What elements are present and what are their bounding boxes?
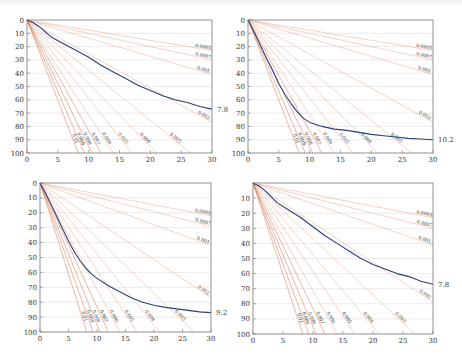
ray-label: 0.001 (196, 65, 210, 74)
ray-label: 0.004 (144, 309, 156, 322)
x-tick-label: 0 (251, 337, 255, 345)
ray-label: 0.006 (325, 311, 336, 325)
y-tick-label: 20 (236, 43, 245, 51)
ray-label: 0.006 (109, 309, 120, 323)
ray-label: 0.0007 (195, 217, 212, 226)
ray-label: 0.005 (338, 131, 350, 144)
y-tick-label: 10 (241, 195, 250, 203)
y-tick-label: 40 (28, 239, 37, 247)
ray-line (40, 183, 211, 226)
x-tick-label: 0 (38, 335, 42, 343)
data-curve (248, 20, 433, 140)
y-tick-label: 80 (15, 123, 24, 131)
y-tick-label: 0 (241, 17, 245, 25)
x-tick-label: 25 (399, 337, 408, 345)
y-tick-label: 70 (15, 110, 24, 118)
y-tick-label: 60 (241, 270, 250, 278)
x-tick-label: 10 (309, 337, 318, 345)
y-tick-label: 10 (236, 30, 245, 38)
y-tick-label: 40 (236, 70, 245, 78)
x-tick-label: 30 (207, 335, 216, 343)
y-tick-label: 20 (241, 210, 250, 218)
ray-line (40, 183, 211, 298)
ray-label: 0.0007 (416, 51, 433, 59)
y-tick-label: 0 (20, 17, 24, 25)
data-curve (40, 183, 211, 313)
chart-panel-bottom-right: 0.00050.00070.0010.0020.0030.0040.0050.0… (223, 153, 462, 359)
y-tick-label: 60 (15, 96, 24, 104)
y-tick-label: 20 (28, 209, 37, 217)
y-tick-label: 10 (15, 30, 24, 38)
y-tick-label: 50 (28, 254, 37, 262)
ray-label: 0.001 (418, 235, 432, 244)
ray-line (40, 183, 211, 216)
y-tick-label: 100 (24, 329, 37, 337)
x-tick-label: 15 (339, 337, 348, 345)
x-tick-label: 20 (150, 335, 159, 343)
curve-end-label: 10.2 (438, 136, 454, 144)
y-tick-label: 80 (28, 299, 37, 307)
x-tick-label: 5 (281, 337, 285, 345)
y-tick-label: 90 (236, 136, 245, 144)
ray-line (248, 20, 433, 60)
y-tick-label: 50 (15, 83, 24, 91)
y-tick-label: 80 (236, 123, 245, 131)
y-tick-label: 30 (236, 56, 245, 64)
curve-end-label: 7.8 (438, 281, 449, 289)
y-tick-label: 0 (33, 180, 37, 188)
ray-label: 0.003 (174, 309, 187, 322)
y-tick-label: 30 (15, 56, 24, 64)
y-tick-label: 90 (241, 315, 250, 323)
y-tick-label: 40 (241, 240, 250, 248)
ray-label: 0.002 (418, 110, 432, 121)
ray-label: 0.0007 (416, 219, 433, 228)
ray-line (248, 20, 433, 75)
y-tick-label: 50 (236, 83, 245, 91)
y-tick-label: 70 (236, 110, 245, 118)
chart-panel-bottom-left: 0.00050.00070.0010.0020.0030.0040.0050.0… (10, 153, 241, 359)
y-tick-label: 20 (15, 43, 24, 51)
ray-label: 0.003 (394, 311, 407, 324)
ray-label: 0.002 (197, 110, 211, 121)
y-tick-label: 70 (241, 285, 250, 293)
y-tick-label: 30 (28, 224, 37, 232)
x-tick-label: 15 (121, 335, 130, 343)
ray-label: 0.0007 (195, 51, 212, 59)
ray-line (253, 183, 433, 245)
y-tick-label: 10 (28, 194, 37, 202)
x-tick-label: 20 (369, 337, 378, 345)
ray-label: 0.004 (362, 311, 374, 324)
y-tick-label: 50 (241, 255, 250, 263)
ray-line (27, 20, 212, 75)
y-tick-label: 60 (28, 269, 37, 277)
y-tick-label: 60 (236, 96, 245, 104)
ray-line (253, 183, 433, 218)
y-tick-label: 90 (15, 136, 24, 144)
x-tick-label: 30 (429, 337, 438, 345)
ray-label: 0.003 (169, 132, 182, 144)
y-tick-label: 80 (241, 300, 250, 308)
y-tick-label: 70 (28, 284, 37, 292)
x-tick-label: 10 (93, 335, 102, 343)
ray-label: 0.001 (417, 65, 431, 74)
y-tick-label: 30 (241, 225, 250, 233)
y-tick-label: 100 (237, 331, 250, 339)
ray-label: 0.001 (196, 235, 210, 244)
x-tick-label: 5 (66, 335, 70, 343)
x-tick-label: 25 (178, 335, 187, 343)
ray-line (253, 183, 433, 228)
y-tick-label: 40 (15, 70, 24, 78)
ray-line (253, 183, 433, 302)
ray-line (27, 20, 212, 60)
ray-label: 0.005 (117, 131, 129, 144)
y-tick-label: 90 (28, 314, 37, 322)
ray-label: 0.004 (139, 131, 152, 144)
